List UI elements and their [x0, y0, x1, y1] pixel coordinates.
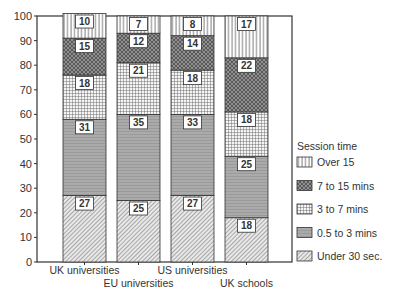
value-label: 14: [187, 38, 199, 49]
stacked-bar-chart: 01020304050607080901002731181510UK unive…: [0, 0, 395, 307]
value-label: 18: [79, 78, 91, 89]
bar-group: 1825182217: [225, 16, 268, 262]
y-tick-label: 80: [20, 59, 32, 71]
value-label: 15: [79, 41, 91, 52]
legend-item: Under 30 sec.: [297, 250, 382, 262]
y-tick-label: 30: [20, 182, 32, 194]
y-tick-label: 50: [20, 133, 32, 145]
legend-label: 3 to 7 mins: [317, 203, 368, 215]
y-tick-label: 10: [20, 231, 32, 243]
legend-item: 0.5 to 3 mins: [297, 227, 377, 239]
legend-item: 7 to 15 mins: [297, 180, 374, 192]
value-label: 35: [133, 117, 145, 128]
value-label: 18: [241, 114, 253, 125]
value-label: 10: [79, 16, 91, 27]
bar-group: 2731181510: [63, 14, 106, 262]
x-category-label: UK schools: [220, 277, 273, 289]
y-tick-label: 70: [20, 84, 32, 96]
plot-area: 01020304050607080901002731181510UK unive…: [14, 10, 292, 289]
bar-group: 273318148: [171, 16, 214, 262]
legend-swatch: [297, 157, 312, 167]
y-tick-label: 100: [14, 10, 32, 22]
y-tick-label: 0: [26, 256, 32, 268]
y-tick-label: 60: [20, 108, 32, 120]
legend-swatch: [297, 251, 312, 261]
legend-item: Over 15: [297, 156, 355, 168]
value-label: 18: [187, 73, 199, 84]
x-category-label: UK universities: [49, 264, 119, 276]
value-label: 7: [136, 19, 142, 30]
value-label: 21: [133, 65, 145, 76]
value-label: 17: [241, 19, 253, 30]
value-label: 27: [79, 198, 91, 209]
legend: Session timeOver 157 to 15 mins3 to 7 mi…: [297, 140, 382, 262]
legend-swatch: [297, 181, 312, 191]
y-tick-label: 20: [20, 207, 32, 219]
legend-label: 0.5 to 3 mins: [317, 227, 377, 239]
value-label: 12: [133, 36, 145, 47]
value-label: 27: [187, 198, 199, 209]
value-label: 31: [79, 122, 91, 133]
value-label: 25: [133, 203, 145, 214]
value-label: 25: [241, 159, 253, 170]
value-label: 22: [241, 60, 253, 71]
legend-item: 3 to 7 mins: [297, 203, 368, 215]
y-tick-label: 40: [20, 158, 32, 170]
value-label: 8: [190, 19, 196, 30]
legend-label: 7 to 15 mins: [317, 180, 374, 192]
legend-label: Under 30 sec.: [317, 250, 382, 262]
legend-label: Over 15: [317, 156, 355, 168]
x-category-label: EU universities: [103, 277, 173, 289]
bar-group: 253521127: [117, 16, 160, 262]
value-label: 33: [187, 117, 199, 128]
y-tick-label: 90: [20, 35, 32, 47]
legend-title: Session time: [297, 140, 357, 152]
legend-swatch: [297, 228, 312, 238]
value-label: 18: [241, 220, 253, 231]
legend-swatch: [297, 204, 312, 214]
x-category-label: US universities: [157, 264, 227, 276]
